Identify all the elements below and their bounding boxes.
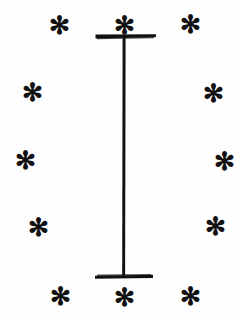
asterisk-lower-right: ✻ xyxy=(204,211,226,233)
asterisk-middle-left: ✻ xyxy=(14,145,36,167)
asterisk-top-right: ✻ xyxy=(179,9,201,31)
asterisk-bottom-left: ✻ xyxy=(49,281,71,303)
i-beam xyxy=(0,0,241,319)
asterisk-upper-left: ✻ xyxy=(21,77,43,99)
asterisk-middle-right: ✻ xyxy=(213,146,235,168)
asterisk-top-left: ✻ xyxy=(48,10,70,32)
i-beam-stem xyxy=(122,36,125,277)
figure-canvas: ✻ ✻ ✻ ✻ ✻ ✻ ✻ ✻ ✻ ✻ ✻ ✻ xyxy=(0,0,241,319)
asterisk-bottom-center: ✻ xyxy=(113,282,135,304)
asterisk-lower-left: ✻ xyxy=(27,212,49,234)
asterisk-upper-right: ✻ xyxy=(202,78,224,100)
asterisk-top-center: ✻ xyxy=(113,10,135,32)
asterisk-bottom-right: ✻ xyxy=(179,281,201,303)
figure-layer: ✻ ✻ ✻ ✻ ✻ ✻ ✻ ✻ ✻ ✻ ✻ ✻ xyxy=(0,0,241,319)
